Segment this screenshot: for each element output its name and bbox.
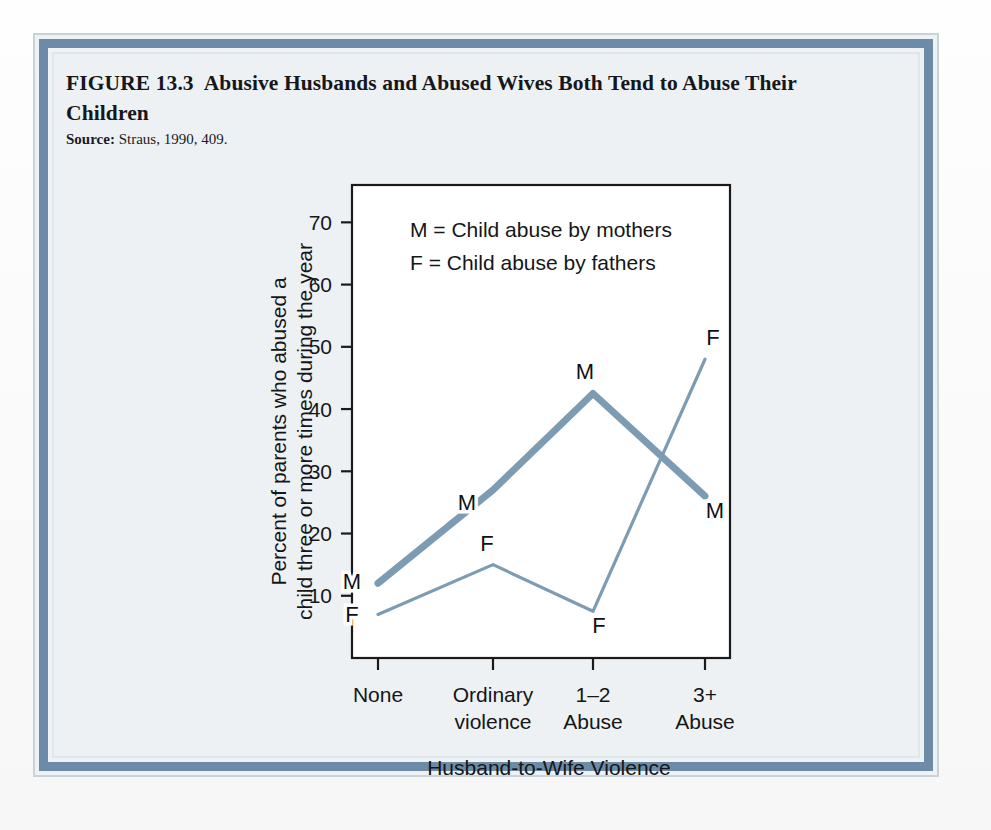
- data-point-label: F: [592, 613, 605, 638]
- x-axis-title: Husband-to-Wife Violence: [427, 756, 671, 779]
- data-point-label: F: [345, 602, 358, 627]
- legend-entry-f: F = Child abuse by fathers: [410, 251, 656, 274]
- data-point-label: M: [706, 498, 724, 523]
- y-axis-title: Percent of parents who abused achild thr…: [267, 243, 316, 620]
- line-chart: 10203040506070NoneOrdinaryviolence1–2Abu…: [0, 0, 991, 830]
- x-axis-category-label: 3+: [693, 683, 717, 706]
- figure-page: FIGURE 13.3Abusive Husbands and Abused W…: [0, 0, 991, 830]
- legend-entry-m: M = Child abuse by mothers: [410, 218, 672, 241]
- x-axis-category-label: None: [353, 683, 403, 706]
- y-axis-title-line: Percent of parents who abused a: [267, 277, 290, 586]
- data-point-label: M: [458, 490, 476, 515]
- x-axis-category-label: Ordinary: [453, 683, 534, 706]
- x-axis-category-label: 1–2: [575, 683, 610, 706]
- data-point-label: F: [480, 531, 493, 556]
- y-axis-tick-label: 70: [309, 211, 332, 234]
- x-axis-category-label: Abuse: [563, 710, 623, 733]
- y-axis-title-line: child three or more times during the yea…: [293, 243, 316, 620]
- data-point-label: M: [576, 359, 594, 384]
- data-point-label: M: [343, 569, 361, 594]
- chart-container: 10203040506070NoneOrdinaryviolence1–2Abu…: [0, 0, 991, 830]
- x-axis-category-label: Abuse: [675, 710, 735, 733]
- x-axis-category-label: violence: [454, 710, 531, 733]
- data-point-label: F: [706, 325, 719, 350]
